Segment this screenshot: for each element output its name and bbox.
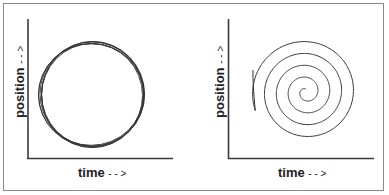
panel-spiral: position - - > time - - > bbox=[194, 0, 388, 195]
spiral-curve bbox=[253, 42, 354, 137]
y-axis-label-text: position bbox=[12, 67, 27, 118]
x-axis-arrow: - - > bbox=[108, 168, 126, 179]
x-axis-label-text: time bbox=[278, 165, 305, 180]
y-axis-label-text: position bbox=[212, 67, 227, 118]
x-axis-label-text: time bbox=[78, 165, 105, 180]
y-axis-label: position - - > bbox=[12, 46, 27, 118]
y-axis-arrow: - - > bbox=[215, 46, 226, 64]
panel-circle: position - - > time - - > bbox=[0, 0, 194, 195]
y-axis-label: position - - > bbox=[212, 46, 227, 118]
x-axis-arrow: - - > bbox=[308, 168, 326, 179]
x-axis-label: time - - > bbox=[78, 165, 126, 180]
x-axis-label: time - - > bbox=[278, 165, 326, 180]
y-axis-arrow: - - > bbox=[15, 46, 26, 64]
orbit-curves bbox=[39, 42, 145, 148]
